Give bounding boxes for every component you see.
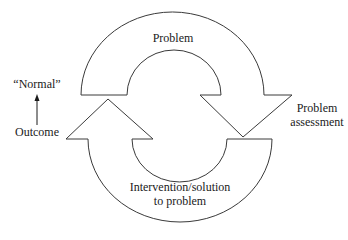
label-problem-assessment: Problem assessment	[286, 101, 348, 129]
label-normal: “Normal”	[7, 77, 67, 91]
label-intervention-line1: Intervention/solution	[118, 180, 242, 194]
label-problem-assessment-line2: assessment	[286, 115, 348, 129]
label-intervention: Intervention/solution to problem	[118, 180, 242, 208]
label-problem-assessment-line1: Problem	[286, 101, 348, 115]
label-intervention-line2: to problem	[118, 194, 242, 208]
label-problem: Problem	[143, 31, 203, 45]
label-outcome: Outcome	[7, 125, 67, 139]
arrowhead-up-icon	[35, 94, 40, 101]
